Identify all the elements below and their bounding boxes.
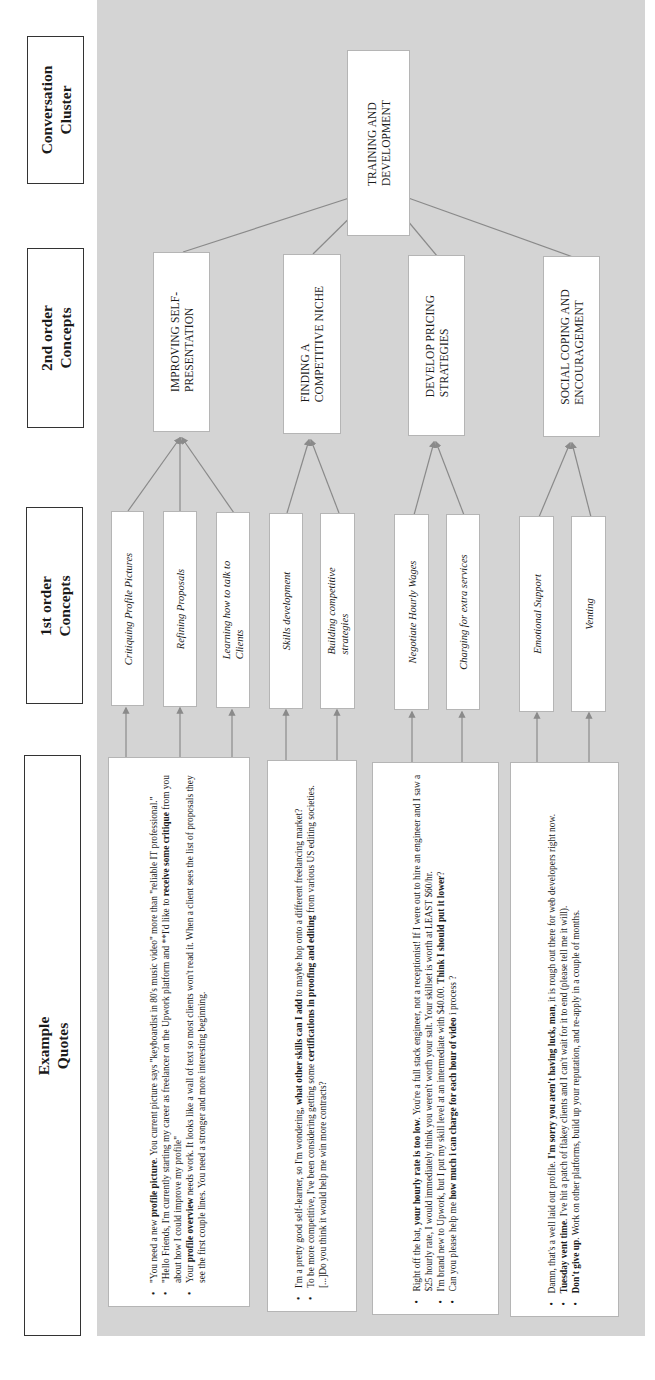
concept-line: STRATEGIES xyxy=(437,294,451,396)
quote-bullet: Damn, that's a well laid out profile. I'… xyxy=(547,772,559,1293)
first-order-skills-development: Skills development xyxy=(269,513,303,709)
second-order-social-coping: SOCIAL COPING ANDENCOURAGEMENT xyxy=(543,256,600,437)
concept-line: Building competitive xyxy=(325,567,338,654)
concept-line: Refining Proposals xyxy=(174,569,187,649)
quote-bullet: "You need a new profile picture. You cur… xyxy=(149,767,161,1283)
quote-bullet: I'm a pretty good self-learner, so I'm w… xyxy=(294,770,306,1288)
concept-line: Charging for extra services xyxy=(457,554,470,669)
second-order-improving-self-presentation: IMPROVING SELF-PRESENTATION xyxy=(153,252,210,432)
quote-list: Right off the bat, your hourly rate is t… xyxy=(412,772,460,1305)
concept-line: DEVELOP PRICING xyxy=(423,294,437,396)
quote-bullet: Tuesday vent time. I've hit a patch of f… xyxy=(559,772,571,1293)
first-order-negotiate-hourly-wages: Negotiate Hourly Wages xyxy=(394,514,429,710)
concept-line: COMPETITIVE NICHE xyxy=(312,286,326,402)
quote-bullet: I'm brand new to Upwork, but I put my sk… xyxy=(436,772,448,1291)
concept-line: Clients xyxy=(233,561,246,660)
quote-list: "You need a new profile picture. You cur… xyxy=(149,767,209,1297)
quote-bullet: To be more competitive, I've been consid… xyxy=(306,770,330,1288)
first-order-learning-talk-to-clients: Learning how to talk toClients xyxy=(216,512,250,708)
quote-box-social-coping: Damn, that's a well laid out profile. I'… xyxy=(510,762,619,1317)
quote-box-self-presentation: "You need a new profile picture. You cur… xyxy=(108,757,250,1307)
concept-line: Venting xyxy=(582,598,595,630)
concept-line: ENCOURAGEMENT xyxy=(572,289,586,405)
quote-bullet: Your profile overview needs work. It loo… xyxy=(185,767,209,1283)
first-order-charging-extra-services: Charging for extra services xyxy=(446,514,480,710)
first-order-building-competitive-strategies: Building competitivestrategies xyxy=(320,513,355,709)
concept-line: Critiquing Profile Pictures xyxy=(121,552,134,664)
concept-line: IMPROVING SELF- xyxy=(168,292,182,392)
concept-line: Emotional Support xyxy=(530,574,543,654)
quote-bullet: Right off the bat, your hourly rate is t… xyxy=(412,772,436,1291)
concept-line: Negotiate Hourly Wages xyxy=(405,561,418,664)
concept-line: PRESENTATION xyxy=(182,292,196,392)
second-order-finding-competitive-niche: FINDING ACOMPETITIVE NICHE xyxy=(283,254,341,434)
first-order-critiquing-profile-pictures: Critiquing Profile Pictures xyxy=(111,511,144,706)
first-order-venting: Venting xyxy=(571,516,606,712)
quote-bullet: "Hello Friends, I'm currently starting m… xyxy=(161,767,185,1283)
second-order-develop-pricing-strategies: DEVELOP PRICINGSTRATEGIES xyxy=(408,255,465,436)
quote-list: I'm a pretty good self-learner, so I'm w… xyxy=(294,770,330,1302)
quote-bullet: Don't give up. Work on other platforms, … xyxy=(570,772,582,1293)
quote-box-competitive-niche: I'm a pretty good self-learner, so I'm w… xyxy=(267,760,357,1312)
first-order-refining-proposals: Refining Proposals xyxy=(163,511,197,707)
quote-bullet: Can you please help me how much i can ch… xyxy=(447,772,459,1291)
concept-line: Skills development xyxy=(280,572,293,650)
cluster-training-and-development: TRAINING ANDDEVELOPMENT xyxy=(347,50,410,236)
quote-box-pricing: Right off the bat, your hourly rate is t… xyxy=(372,762,499,1315)
cluster-label-line: DEVELOPMENT xyxy=(379,100,393,186)
concept-line: strategies xyxy=(338,567,351,654)
first-order-emotional-support: Emotional Support xyxy=(519,516,554,712)
cluster-label-line: TRAINING AND xyxy=(365,100,379,186)
concept-line: Learning how to talk to xyxy=(220,561,233,660)
concept-line: FINDING A xyxy=(298,286,312,402)
concept-line: SOCIAL COPING AND xyxy=(558,289,572,405)
quote-list: Damn, that's a well laid out profile. I'… xyxy=(547,772,583,1307)
